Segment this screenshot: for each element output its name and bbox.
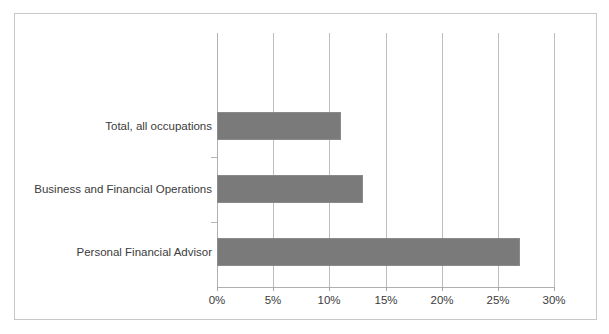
xtick-label-15: 15%	[366, 293, 406, 307]
xtick-label-30: 30%	[534, 293, 574, 307]
bar-total-all-occupations	[217, 112, 341, 140]
xtick-label-10: 10%	[309, 293, 349, 307]
xtick-label-20: 20%	[422, 293, 462, 307]
xtick-label-5: 5%	[253, 293, 293, 307]
category-tick-1	[211, 157, 217, 158]
chart-figure: Total, all occupations Business and Fina…	[0, 0, 609, 334]
xtick-30	[554, 287, 555, 291]
category-label-personal-financial-advisor: Personal Financial Advisor	[76, 245, 212, 259]
xtick-20	[442, 287, 443, 291]
xtick-10	[329, 287, 330, 291]
category-label-business-and-financial-operations: Business and Financial Operations	[34, 182, 212, 196]
xtick-0	[217, 287, 218, 291]
gridline-30	[554, 33, 555, 287]
xtick-25	[498, 287, 499, 291]
xtick-label-25: 25%	[478, 293, 518, 307]
bar-business-and-financial-operations	[217, 175, 363, 203]
bar-personal-financial-advisor	[217, 238, 520, 266]
xtick-15	[386, 287, 387, 291]
category-tick-2	[211, 222, 217, 223]
xtick-5	[273, 287, 274, 291]
xtick-label-0: 0%	[197, 293, 237, 307]
category-label-total-all-occupations: Total, all occupations	[105, 119, 212, 133]
